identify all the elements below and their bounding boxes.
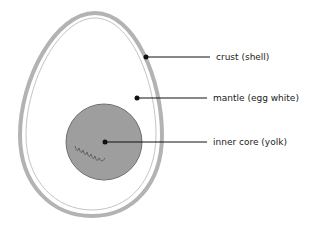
egg-diagram — [0, 0, 311, 227]
label-mantle: mantle (egg white) — [213, 93, 299, 103]
label-crust: crust (shell) — [216, 52, 269, 62]
label-inner-core: inner core (yolk) — [213, 137, 287, 147]
